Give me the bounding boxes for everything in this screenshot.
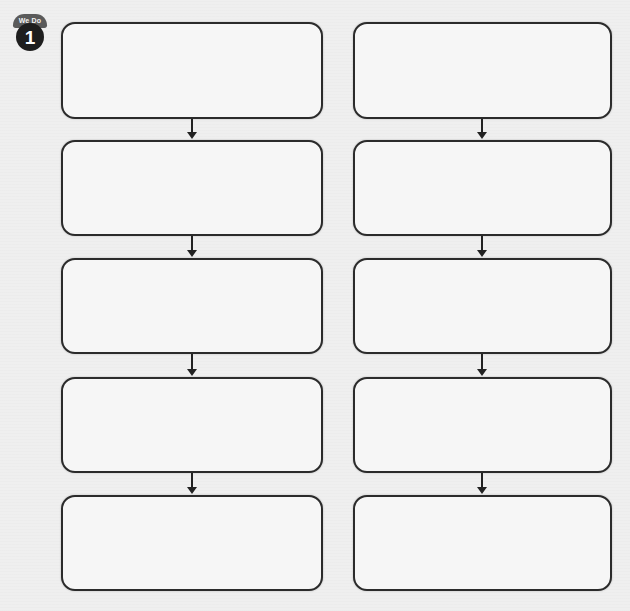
down-arrow-icon: [187, 119, 197, 140]
right-flow-box-4[interactable]: [353, 377, 612, 473]
right-flow-box-5[interactable]: [353, 495, 612, 591]
down-arrow-icon: [187, 473, 197, 495]
left-flow-box-1[interactable]: [61, 22, 323, 119]
left-flow-box-3[interactable]: [61, 258, 323, 354]
down-arrow-icon: [477, 119, 487, 140]
right-flow-box-3[interactable]: [353, 258, 612, 354]
we-do-badge-number: 1: [16, 23, 44, 51]
down-arrow-icon: [477, 236, 487, 258]
down-arrow-icon: [187, 354, 197, 377]
down-arrow-icon: [187, 236, 197, 258]
right-flow-box-2[interactable]: [353, 140, 612, 236]
down-arrow-icon: [477, 354, 487, 377]
left-flow-box-5[interactable]: [61, 495, 323, 591]
worksheet-page: We Do 1: [0, 0, 630, 611]
left-flow-box-4[interactable]: [61, 377, 323, 473]
right-flow-box-1[interactable]: [353, 22, 612, 119]
left-flow-box-2[interactable]: [61, 140, 323, 236]
we-do-badge: We Do 1: [13, 14, 47, 48]
down-arrow-icon: [477, 473, 487, 495]
